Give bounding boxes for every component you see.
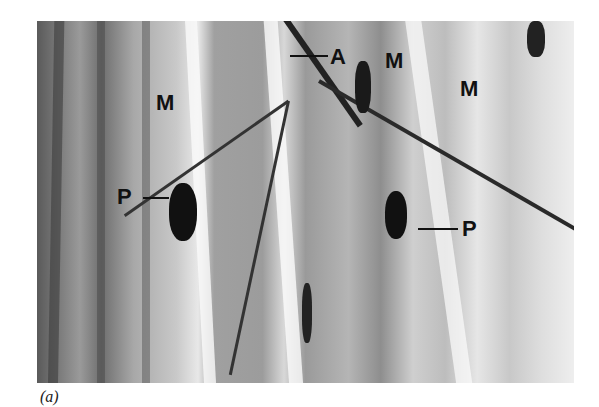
end-plate [355,61,371,113]
label-muscle: M [156,92,174,114]
end-plate [169,183,197,241]
label-muscle: M [385,50,403,72]
label-end-plate: P [117,186,132,208]
axon-trunk [278,21,363,127]
label-muscle: M [460,78,478,100]
arrow-end-plate [143,197,169,199]
arrow-axon [290,55,328,57]
arrow-end-plate [418,228,458,230]
label-axon: A [330,46,346,68]
dark-spot [527,21,545,57]
label-end-plate: P [462,218,477,240]
end-plate [302,283,312,343]
fiber-band [47,21,64,383]
end-plate [385,191,407,239]
fiber-band [262,21,305,383]
figure-caption: (a) [40,388,59,406]
fiber-band [97,21,105,383]
